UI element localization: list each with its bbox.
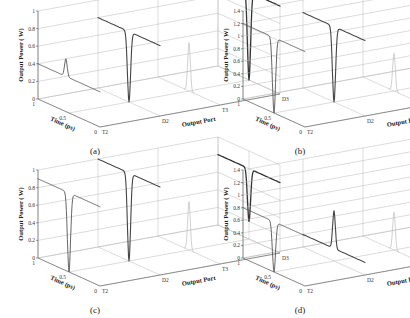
- gridline: [38, 31, 218, 64]
- z-tick-label: 1: [237, 192, 240, 198]
- z-tick-label: 0.6: [28, 43, 35, 49]
- z-tick-label: 1.4: [233, 167, 240, 173]
- gridline: [38, 0, 218, 11]
- z-axis-label: Output Power ( W): [222, 187, 230, 240]
- time-tick-label: 1: [237, 260, 240, 266]
- z-tick-label: 0.2: [233, 83, 240, 89]
- port-tick-label: T2: [307, 129, 313, 135]
- curve-t3: [184, 43, 193, 93]
- gridline: [38, 0, 218, 29]
- z-axis-label: Output Power ( W): [17, 28, 25, 81]
- plot-c: 00.20.40.60.81Output Power ( W)00.51Time…: [0, 159, 205, 318]
- z-tick-label: 0.8: [233, 205, 240, 211]
- z-tick-label: 0.8: [233, 46, 240, 52]
- z-tick-label: 0.6: [233, 58, 240, 64]
- subplot-c: 00.20.40.60.81Output Power ( W)00.51Time…: [0, 159, 205, 318]
- z-tick-label: 0.4: [233, 71, 240, 77]
- gridline: [38, 13, 218, 46]
- z-tick-label: 0.8: [28, 185, 35, 191]
- port-axis-label: Output Port: [386, 274, 410, 287]
- subplot-b: 00.20.40.60.811.21.4Output Power ( W)00.…: [205, 0, 410, 159]
- time-tick-label: 0: [94, 288, 97, 294]
- gridline: [243, 0, 410, 24]
- plot-d: 00.20.40.60.811.21.4Output Power ( W)00.…: [205, 159, 410, 318]
- time-tick-label: 1: [32, 101, 35, 107]
- curve-d2: [98, 18, 160, 102]
- panel-caption: (b): [295, 146, 306, 156]
- port-tick-label: D2: [367, 118, 374, 124]
- gridline: [243, 0, 410, 11]
- curve-t3: [184, 202, 193, 252]
- z-tick-label: 0.2: [28, 78, 35, 84]
- z-tick-label: 0.6: [28, 202, 35, 208]
- gridline: [38, 172, 218, 205]
- time-tick-label: 1: [237, 101, 240, 107]
- z-tick-label: 0.8: [28, 26, 35, 32]
- z-tick-label: 1.4: [233, 8, 240, 14]
- subplot-a: 00.20.40.60.81Output Power ( W)00.51Time…: [0, 0, 205, 159]
- panel-caption: (a): [90, 146, 100, 156]
- z-tick-label: 0.4: [233, 230, 240, 236]
- gridline: [363, 236, 410, 264]
- z-tick-label: 0.2: [233, 242, 240, 248]
- z-tick-label: 1.2: [233, 21, 240, 27]
- port-tick-label: D2: [367, 277, 374, 283]
- port-axis-label: Output Port: [386, 115, 410, 128]
- gridline: [274, 239, 410, 272]
- curve-t2: [38, 59, 100, 92]
- port-tick-label: T2: [307, 288, 313, 294]
- z-tick-label: 0.4: [28, 220, 35, 226]
- z-tick-label: 1: [32, 167, 35, 173]
- time-tick-label: 0: [94, 129, 97, 135]
- z-axis-label: Output Power ( W): [222, 28, 230, 81]
- z-tick-label: 1: [237, 33, 240, 39]
- port-tick-label: T2: [102, 288, 108, 294]
- z-tick-label: 0.2: [28, 237, 35, 243]
- port-tick-label: T2: [102, 129, 108, 135]
- gridline: [363, 77, 410, 105]
- z-tick-label: 1.2: [233, 180, 240, 186]
- gridline: [274, 80, 410, 113]
- z-axis-label: Output Power ( W): [17, 187, 25, 240]
- subplot-d: 00.20.40.60.811.21.4Output Power ( W)00.…: [205, 159, 410, 318]
- z-tick-label: 0.4: [28, 61, 35, 67]
- time-tick-label: 0: [299, 129, 302, 135]
- curve-t2: [38, 179, 100, 272]
- time-tick-label: 1: [32, 260, 35, 266]
- plot-b: 00.20.40.60.811.21.4Output Power ( W)00.…: [205, 0, 410, 159]
- panel-caption: (d): [295, 305, 306, 315]
- curve-d2: [303, 211, 365, 263]
- port-tick-label: D2: [162, 118, 169, 124]
- time-tick-label: 0: [299, 288, 302, 294]
- z-tick-label: 0.6: [233, 217, 240, 223]
- z-tick-label: 1: [32, 8, 35, 14]
- plot-a: 00.20.40.60.81Output Power ( W)00.51Time…: [0, 0, 205, 159]
- gridline: [38, 155, 218, 188]
- panel-caption: (c): [90, 305, 100, 315]
- port-tick-label: D2: [162, 277, 169, 283]
